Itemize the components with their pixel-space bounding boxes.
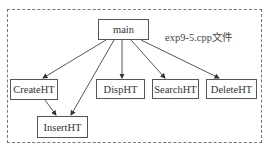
edge-main-createht — [43, 40, 106, 78]
node-searchht: SearchHT — [152, 79, 199, 99]
node-createht: CreateHT — [10, 79, 58, 100]
node-insertht-label: InsertHT — [44, 122, 82, 133]
edge-createht-insertht — [45, 100, 56, 115]
node-main: main — [98, 19, 149, 40]
node-insertht: InsertHT — [37, 116, 88, 138]
node-searchht-label: SearchHT — [154, 84, 197, 95]
node-dispht: DispHT — [96, 79, 145, 99]
node-main-label: main — [113, 24, 134, 35]
edge-main-searchht — [131, 40, 165, 78]
node-deleteht: DeleteHT — [206, 79, 257, 99]
edge-main-deleteht — [141, 40, 219, 78]
edge-main-insertht — [71, 40, 114, 115]
node-createht-label: CreateHT — [13, 84, 54, 95]
node-dispht-label: DispHT — [104, 84, 138, 95]
node-deleteht-label: DeleteHT — [211, 84, 252, 95]
file-label: exp9-5.cpp文件 — [165, 29, 232, 44]
